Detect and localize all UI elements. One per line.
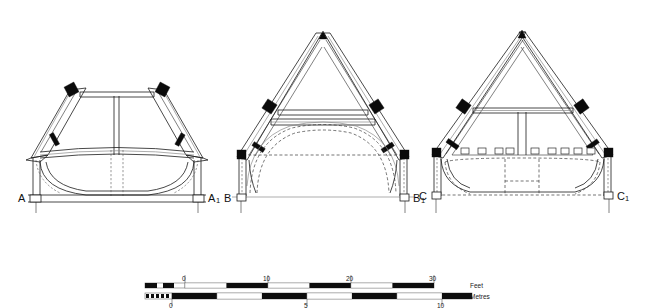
- feet-unit-label: Feet: [470, 282, 483, 289]
- truss-a-right-label-letter: A: [208, 192, 216, 204]
- metres-tick-label-0: 0: [169, 302, 173, 308]
- truss-b-base-block-left: [237, 194, 246, 201]
- truss-c-base-block-right: [604, 192, 613, 199]
- truss-c-joist: [495, 148, 503, 154]
- truss-a-base-block-left: [30, 195, 41, 202]
- truss-c-joist: [531, 148, 539, 154]
- feet-bar-seg: [351, 283, 393, 288]
- metres-bar-seg: [397, 293, 442, 299]
- feet-tick-label-30: 30: [429, 275, 437, 282]
- truss-c-joist: [574, 148, 582, 154]
- metres-tick-label-5: 5: [304, 302, 308, 308]
- feet-bar-seg: [185, 283, 227, 288]
- truss-c-joist: [587, 148, 595, 154]
- feet-bar-extension-seg: [163, 283, 174, 288]
- metres-unit-label: Metres: [470, 293, 491, 300]
- truss-c-left-label: C: [419, 190, 427, 202]
- truss-c-right-label-sub: 1: [625, 194, 629, 203]
- truss-a-base-block-right: [193, 195, 204, 202]
- truss-b-foot-block-left: [237, 150, 246, 159]
- metres-bar-seg: [172, 293, 217, 299]
- truss-c-joist: [478, 148, 486, 154]
- truss-c-joist: [461, 148, 469, 154]
- metres-bar-seg: [352, 293, 397, 299]
- metres-bar-seg: [307, 293, 352, 299]
- truss-c-right-label-letter: C: [617, 190, 625, 202]
- truss-c-joist: [548, 148, 556, 154]
- metres-bar-seg: [262, 293, 307, 299]
- truss-a-left-label: A: [18, 192, 26, 204]
- feet-tick-label-10: 10: [263, 275, 271, 282]
- feet-bar-seg: [310, 283, 352, 288]
- truss-c-joist: [506, 148, 514, 154]
- truss-c-foot-block-left: [432, 148, 441, 157]
- metres-bar-seg: [217, 293, 262, 299]
- metres-tick-label-10: 10: [437, 302, 445, 308]
- feet-bar-seg: [227, 283, 269, 288]
- feet-tick-label-20: 20: [346, 275, 354, 282]
- truss-a-right-label-group: A 1: [207, 192, 223, 205]
- truss-drawing-figure: A C A 1: [0, 0, 645, 308]
- metres-bar-subdiv: [156, 294, 159, 298]
- truss-b-base-block-right: [400, 194, 409, 201]
- metres-bar-subdiv: [146, 294, 149, 298]
- feet-bar-extension-seg: [145, 283, 157, 288]
- feet-tick-label-0: 0: [182, 275, 186, 282]
- metres-bar-subdiv: [161, 294, 164, 298]
- truss-a-right-label-sub: 1: [216, 196, 220, 205]
- metres-bar-subdiv: [166, 294, 169, 298]
- feet-bar-seg: [393, 283, 435, 288]
- feet-bar-seg: [268, 283, 310, 288]
- truss-c-foot-block-right: [604, 148, 613, 157]
- metres-bar-subdiv: [151, 294, 154, 298]
- truss-c-joist: [561, 148, 569, 154]
- metres-bar-seg: [442, 293, 472, 299]
- truss-b-left-label: B: [224, 192, 231, 204]
- truss-b-foot-block-right: [400, 150, 409, 159]
- truss-c-base-block-left: [432, 192, 441, 199]
